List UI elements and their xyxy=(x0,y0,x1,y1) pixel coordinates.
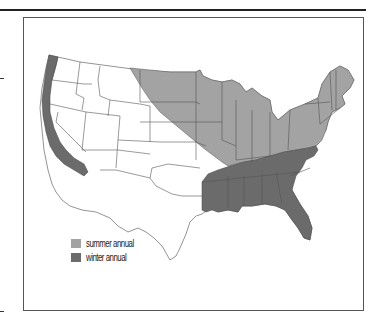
legend-item-summer-annual: summer annual xyxy=(71,236,147,250)
us-map xyxy=(0,0,383,336)
legend-label: summer annual xyxy=(86,238,134,249)
winter-annual-swatch xyxy=(71,253,81,262)
legend: summer annual winter annual xyxy=(71,236,147,264)
legend-item-winter-annual: winter annual xyxy=(71,250,147,264)
legend-label: winter annual xyxy=(86,252,126,263)
summer-annual-swatch xyxy=(71,239,81,248)
